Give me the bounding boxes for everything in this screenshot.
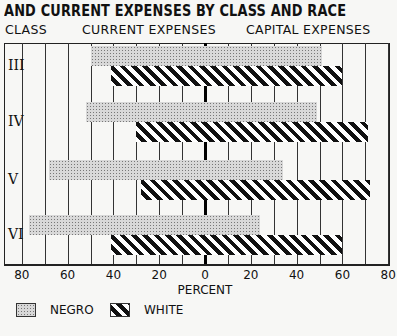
white-swatch-icon bbox=[110, 303, 130, 317]
class-header: CLASS bbox=[5, 22, 47, 37]
bar-white bbox=[136, 122, 367, 142]
x-axis-label: PERCENT bbox=[178, 283, 233, 297]
legend-negro: NEGRO bbox=[16, 303, 94, 317]
x-tick-label: 20 bbox=[152, 268, 167, 282]
class-label: VI bbox=[8, 226, 24, 242]
x-tick-label: 40 bbox=[106, 268, 121, 282]
legend-white-label: WHITE bbox=[144, 303, 183, 317]
legend-white: WHITE bbox=[110, 303, 183, 317]
class-label: V bbox=[8, 171, 18, 187]
legend-negro-label: NEGRO bbox=[50, 303, 94, 317]
class-label: III bbox=[8, 57, 25, 73]
bar-white bbox=[111, 66, 342, 86]
x-tick-label: 0 bbox=[201, 268, 209, 282]
bar-negro bbox=[29, 215, 260, 235]
bar-white bbox=[141, 180, 370, 200]
x-tick-label: 80 bbox=[14, 268, 29, 282]
current-expenses-header: CURRENT EXPENSES bbox=[82, 22, 216, 37]
x-tick-label: 40 bbox=[289, 268, 304, 282]
x-axis-line bbox=[4, 264, 390, 266]
x-tick-label: 60 bbox=[60, 268, 75, 282]
bar-negro bbox=[91, 46, 322, 66]
gridline bbox=[388, 43, 389, 265]
bar-negro bbox=[49, 160, 283, 180]
negro-swatch-icon bbox=[16, 303, 36, 317]
x-tick-label: 60 bbox=[335, 268, 350, 282]
capital-expenses-header: CAPITAL EXPENSES bbox=[246, 22, 370, 37]
gridline bbox=[342, 43, 343, 265]
class-label: IV bbox=[8, 113, 24, 129]
bar-negro bbox=[86, 102, 317, 122]
chart-title: AND CURRENT EXPENSES BY CLASS AND RACE bbox=[4, 2, 346, 20]
gridline bbox=[365, 43, 366, 265]
x-tick-label: 20 bbox=[243, 268, 258, 282]
x-tick-label: 80 bbox=[381, 268, 396, 282]
bar-white bbox=[111, 235, 342, 255]
